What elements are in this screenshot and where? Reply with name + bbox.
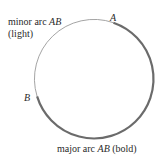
major-arc-ab	[37, 23, 153, 139]
minor-arc-var: AB	[49, 16, 61, 27]
major-arc-var: AB	[98, 143, 110, 154]
point-b-label: B	[24, 92, 30, 103]
point-a-label: A	[110, 12, 116, 23]
minor-arc-text: minor arc	[8, 16, 49, 27]
minor-arc-ab	[34, 19, 113, 96]
major-arc-text: major arc	[57, 143, 98, 154]
major-arc-label: major arc AB (bold)	[57, 143, 137, 154]
minor-arc-light-note: (light)	[8, 28, 33, 39]
major-arc-bold-note: (bold)	[110, 143, 137, 154]
minor-arc-label: minor arc AB	[8, 16, 61, 27]
